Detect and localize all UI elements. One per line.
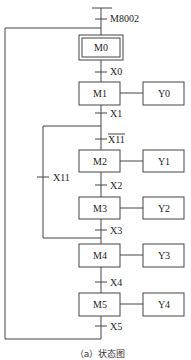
transition-label-m8002: M8002: [110, 13, 139, 24]
state-label-m4: M4: [93, 250, 107, 261]
skip-branch-line: [43, 126, 101, 238]
transition-label-x5: X5: [110, 321, 122, 332]
state-label-m5: M5: [93, 299, 107, 310]
transition-label-x11-not: X11: [108, 134, 125, 145]
transition-label-x1: X1: [110, 108, 122, 119]
transition-label-x0: X0: [110, 66, 122, 77]
transition-label-x2: X2: [110, 180, 122, 191]
state-diagram: M8002 X0 X1 X11 X11 X2 X3 X4 X5 M0 M1 Y0…: [0, 0, 191, 360]
state-label-m1: M1: [93, 88, 107, 99]
action-label-y3: Y3: [158, 250, 170, 261]
transition-label-x4: X4: [110, 277, 122, 288]
figure-caption: （a）状态图: [75, 348, 126, 359]
action-label-y4: Y4: [158, 299, 170, 310]
action-label-y1: Y1: [158, 156, 170, 167]
loop-back-line: [5, 28, 101, 339]
state-label-m2: M2: [93, 156, 107, 167]
action-label-y2: Y2: [158, 203, 170, 214]
state-label-m0: M0: [94, 42, 108, 53]
state-label-m3: M3: [93, 203, 107, 214]
transition-label-x3: X3: [110, 225, 122, 236]
action-label-y0: Y0: [158, 88, 170, 99]
transition-label-x11-skip: X11: [53, 172, 70, 183]
